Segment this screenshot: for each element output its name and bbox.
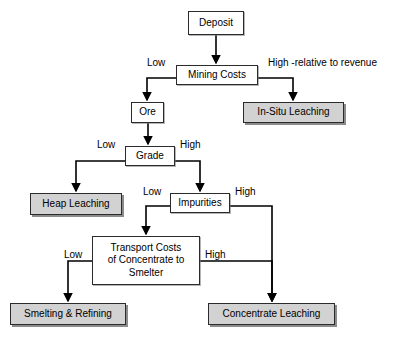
edge-mining-costs-low-to-ore: [147, 78, 176, 100]
edge-impurities-high-to-concentrate-leaching: [230, 206, 272, 301]
edge-label-transport-costs-low: Low: [64, 249, 82, 260]
node-mining-costs[interactable]: Mining Costs: [176, 65, 258, 85]
flowchart-diagram: Deposit Mining Costs In-Situ Leaching Or…: [0, 0, 394, 342]
edge-label-impurities-high: High: [235, 186, 256, 197]
node-ore[interactable]: Ore: [131, 102, 164, 123]
node-impurities[interactable]: Impurities: [170, 193, 230, 213]
edge-label-mining-costs-high: High -relative to revenue: [268, 57, 377, 68]
edge-label-transport-costs-high: High: [205, 249, 226, 260]
edge-label-mining-costs-low: Low: [147, 57, 165, 68]
edge-label-grade-low: Low: [97, 139, 115, 150]
edge-grade-high-to-impurities: [175, 161, 200, 191]
edge-label-grade-high: High: [180, 139, 201, 150]
node-transport-costs[interactable]: Transport Costs of Concentrate to Smelte…: [92, 236, 200, 285]
edge-transport-low-to-smelting-refining: [68, 261, 92, 301]
edge-connector-layer: [0, 0, 394, 342]
node-smelting-and-refining[interactable]: Smelting & Refining: [10, 303, 126, 325]
node-heap-leaching[interactable]: Heap Leaching: [30, 193, 122, 215]
node-deposit[interactable]: Deposit: [188, 11, 244, 35]
edge-label-impurities-low: Low: [143, 186, 161, 197]
node-grade[interactable]: Grade: [125, 146, 175, 166]
edge-transport-high-to-concentrate-leaching: [200, 261, 272, 301]
edge-mining-costs-high-to-in-situ: [258, 78, 293, 100]
edge-impurities-low-to-transport-costs: [146, 206, 170, 234]
edge-grade-low-to-heap-leaching: [76, 161, 125, 191]
node-concentrate-leaching[interactable]: Concentrate Leaching: [208, 303, 335, 325]
node-in-situ-leaching[interactable]: In-Situ Leaching: [243, 102, 344, 123]
